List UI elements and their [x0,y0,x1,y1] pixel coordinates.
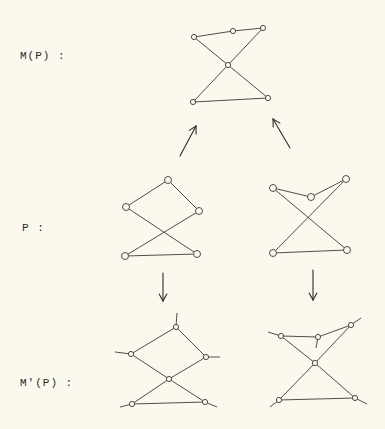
node [315,334,320,339]
arrow-shaft [273,119,290,148]
edge [281,336,315,363]
edge [233,28,263,31]
node [194,251,201,258]
edge [169,379,205,402]
node [230,28,235,33]
edge [169,357,206,379]
node [270,185,277,192]
node [276,397,281,402]
edge [126,180,168,207]
node [312,360,317,365]
edge [193,65,228,102]
arrows [159,119,317,301]
graph-mprime-left [115,313,220,407]
edge [281,336,318,337]
node [348,322,353,327]
node [265,95,270,100]
node [260,25,265,30]
node [165,177,172,184]
node [173,324,178,329]
node [278,333,283,338]
node [203,354,208,359]
edge [318,325,351,337]
edge [125,254,197,256]
edge [125,211,199,256]
edge [131,354,169,379]
edge [194,37,228,65]
edge [132,402,205,404]
node [196,208,203,215]
node [122,253,129,260]
node [190,99,195,104]
edge [279,398,355,400]
node [308,194,315,201]
edge [168,180,199,211]
node [344,247,351,254]
node [352,395,357,400]
node [166,376,171,381]
graph-p-right [270,176,351,257]
node [191,34,196,39]
edge [311,179,346,197]
graph-p-left [122,177,203,260]
edge [194,31,233,37]
graph-mprime-right [268,318,367,407]
node [270,250,277,257]
edge [279,363,315,400]
edge [132,379,169,404]
edge [193,98,268,102]
edge [131,327,176,354]
edge [273,250,347,253]
edge [126,207,197,254]
node [129,401,134,406]
diagram-canvas [0,0,385,429]
edge [315,363,355,398]
node [123,204,130,211]
graph-mp [190,25,270,104]
node [202,399,207,404]
arrow-shaft [180,126,196,156]
edge [273,179,346,253]
node [128,351,133,356]
edge [228,65,268,98]
edge [315,325,351,363]
node [343,176,350,183]
edge [176,327,206,357]
node [225,62,230,67]
